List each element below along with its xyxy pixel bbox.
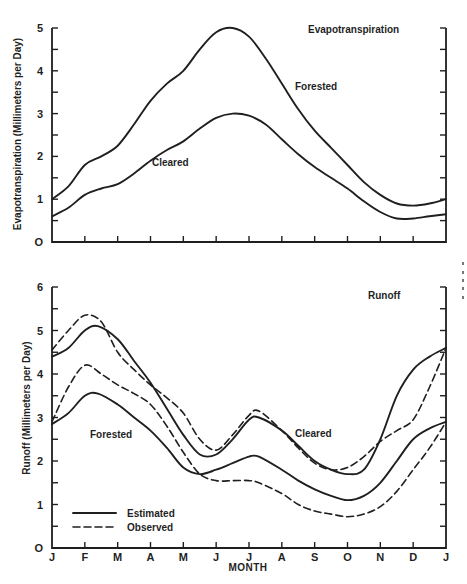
y-tick-label: 6 [37, 281, 43, 293]
y-tick-label: 2 [37, 455, 43, 467]
top-label-cleared: Cleared [152, 157, 189, 168]
series-forested-observed [52, 365, 446, 517]
y-tick-label: 2 [37, 150, 43, 162]
y-tick-label: 5 [37, 325, 43, 337]
x-tick-label: O [343, 551, 352, 563]
x-tick-label: J [443, 551, 449, 563]
top-chart-title: Evapotranspiration [308, 24, 399, 35]
axis-frame [52, 28, 446, 242]
axis-frame [52, 287, 446, 548]
bottom-label-forested: Forested [90, 429, 132, 440]
legend: Estimated Observed [73, 508, 175, 533]
y-tick-label: 1 [37, 193, 43, 205]
x-axis-label: MONTH [228, 562, 267, 573]
y-tick-label: 4 [37, 368, 44, 380]
x-tick-label: D [409, 551, 417, 563]
legend-estimated: Estimated [127, 508, 175, 519]
x-tick-label: M [113, 551, 122, 563]
x-tick-label: A [278, 551, 286, 563]
y-tick-label: 3 [37, 108, 43, 120]
x-tick-label: A [147, 551, 155, 563]
bottom-chart-title: Runoff [368, 290, 401, 301]
cropped-caption-fragment [462, 262, 464, 299]
x-tick-label: M [179, 551, 188, 563]
y-tick-label: 4 [37, 65, 44, 77]
bottom-y-axis-label: Runoff (Millimeters per Day) [21, 341, 32, 474]
runoff-panel: O123456JFMAMJJASONDJ [34, 281, 449, 563]
series-forested-estimated [52, 393, 446, 500]
y-tick-label: 5 [37, 22, 43, 34]
legend-observed: Observed [127, 522, 173, 533]
top-y-axis-label: Evapotranspiration (Millimeters per Day) [12, 38, 23, 230]
y-tick-label: 3 [37, 412, 43, 424]
y-tick-label: O [34, 236, 43, 248]
y-tick-label: 1 [37, 499, 43, 511]
x-tick-label: N [376, 551, 384, 563]
y-tick-label: O [34, 542, 43, 554]
top-label-forested: Forested [295, 81, 337, 92]
x-tick-label: J [213, 551, 219, 563]
x-tick-label: J [49, 551, 55, 563]
series-cleared [52, 113, 446, 219]
x-tick-label: S [311, 551, 318, 563]
figure: O12345 O123456JFMAMJJASONDJ Evapotranspi… [0, 0, 467, 584]
evapotranspiration-panel: O12345 [34, 22, 446, 248]
series-forested [52, 28, 446, 206]
x-tick-label: F [81, 551, 88, 563]
series-cleared-observed [52, 315, 446, 470]
bottom-label-cleared: Cleared [295, 428, 332, 439]
